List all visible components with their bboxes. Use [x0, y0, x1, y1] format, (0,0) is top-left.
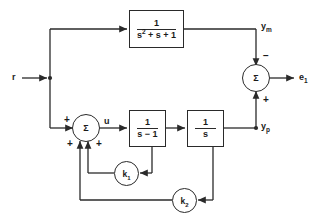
block-numerator: 1 — [199, 118, 212, 128]
sigma-glyph: Σ — [253, 73, 258, 83]
signal-label-yp: yp — [261, 122, 270, 131]
block-denominator: s − 1 — [133, 129, 161, 139]
block-reference-model[interactable]: 1 s2 + s + 1 — [129, 10, 184, 48]
gain-label: k1 — [122, 169, 130, 179]
block-plant-first-order[interactable]: 1 s − 1 — [129, 110, 166, 147]
gain-label: k2 — [180, 196, 188, 206]
block-diagram-canvas: 1 s2 + s + 1 1 s − 1 1 s Σ Σ k1 k2 r ym … — [0, 0, 317, 221]
signal-label-e1: e1 — [299, 73, 308, 82]
block-numerator: 1 — [141, 118, 154, 128]
summing-junction-error[interactable]: Σ — [242, 64, 270, 92]
block-denominator: s — [199, 129, 212, 139]
gain-block-k1[interactable]: k1 — [114, 161, 139, 186]
junction-dot-r-split — [48, 76, 52, 80]
signal-label-u: u — [104, 117, 110, 126]
sign-plus-error-summer: + — [263, 95, 269, 105]
block-numerator: 1 — [150, 19, 163, 29]
sigma-glyph: Σ — [83, 123, 88, 133]
junction-dot-yp — [254, 126, 258, 130]
sign-plus-control-bottom-left: + — [67, 139, 73, 149]
sign-plus-control-bottom-right: + — [96, 139, 102, 149]
gain-block-k2[interactable]: k2 — [172, 188, 197, 213]
sign-plus-control-left: + — [64, 115, 70, 125]
signal-label-ym: ym — [261, 22, 272, 31]
sign-minus-error-summer: − — [263, 51, 269, 61]
block-denominator: s2 + s + 1 — [133, 30, 180, 40]
signal-label-r: r — [12, 73, 16, 82]
block-integrator[interactable]: 1 s — [187, 110, 224, 147]
